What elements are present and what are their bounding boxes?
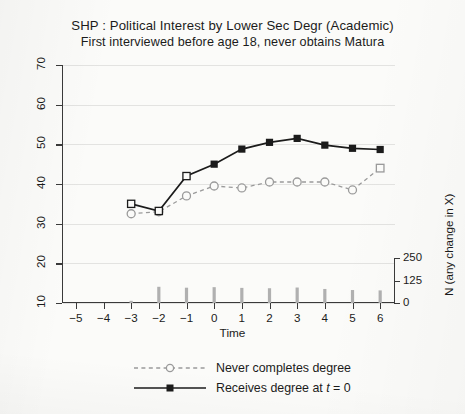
right-axis-title: N (any change in X) <box>442 194 455 296</box>
gridline <box>63 105 395 106</box>
y-axis-label: 70 <box>34 52 47 76</box>
right-axis-label: 0 <box>403 296 409 308</box>
x-axis-tick <box>187 303 188 309</box>
chart-title: SHP : Political Interest by Lower Sec De… <box>0 18 465 34</box>
x-axis-tick <box>214 303 215 309</box>
x-axis-label: −5 <box>64 311 88 324</box>
x-axis-tick <box>104 303 105 309</box>
chart-title-block: SHP : Political Interest by Lower Sec De… <box>0 18 465 50</box>
gridline <box>63 184 395 185</box>
y-axis-tick <box>56 144 62 145</box>
x-axis-title: Time <box>0 326 465 340</box>
right-axis-label: 250 <box>403 251 422 263</box>
chart-subtitle: First interviewed before age 18, never o… <box>0 34 465 50</box>
x-axis-label: 6 <box>368 311 392 324</box>
y-axis-tick <box>56 65 62 66</box>
y-axis-tick <box>56 184 62 185</box>
x-axis-tick <box>76 303 77 309</box>
x-axis-tick <box>325 303 326 309</box>
legend-label-never-completes: Never completes degree <box>216 361 351 375</box>
x-axis-tick <box>380 303 381 309</box>
x-axis-label: −3 <box>119 311 143 324</box>
y-axis-tick <box>56 105 62 106</box>
y-axis-label: 10 <box>34 290 47 314</box>
x-axis-label: 4 <box>313 311 337 324</box>
legend-item-receives-degree: Receives degree at t = 0 <box>0 378 465 398</box>
legend-item-never-completes: Never completes degree <box>0 358 465 378</box>
legend-label-receives-degree: Receives degree at t = 0 <box>216 381 351 395</box>
legend-key-solid-filled-square <box>132 381 208 395</box>
x-axis-label: −4 <box>92 311 116 324</box>
gridline <box>63 263 395 264</box>
gridline <box>63 224 395 225</box>
x-axis-label: −1 <box>175 311 199 324</box>
chart-figure: SHP : Political Interest by Lower Sec De… <box>0 0 465 414</box>
x-axis-label: −2 <box>147 311 171 324</box>
x-axis-label: 5 <box>341 311 365 324</box>
y-axis-label: 40 <box>34 171 47 195</box>
gridline <box>63 303 395 304</box>
gridline <box>63 144 395 145</box>
x-axis-tick <box>297 303 298 309</box>
y-axis-label: 60 <box>34 91 47 115</box>
x-axis-tick <box>159 303 160 309</box>
plot-area <box>62 65 394 303</box>
right-axis-line <box>394 258 395 304</box>
x-axis-tick <box>353 303 354 309</box>
x-axis-label: 0 <box>202 311 226 324</box>
y-axis-tick <box>56 263 62 264</box>
x-axis-tick <box>242 303 243 309</box>
legend-key-dashed-open-circle <box>132 361 208 375</box>
y-axis-label: 50 <box>34 131 47 155</box>
x-axis-label: 1 <box>230 311 254 324</box>
right-axis-label: 125 <box>403 274 422 286</box>
x-axis-tick <box>270 303 271 309</box>
y-axis-label: 30 <box>34 210 47 234</box>
chart-legend: Never completes degree Receives degree a… <box>0 358 465 398</box>
y-axis-tick <box>56 303 62 304</box>
gridline <box>63 65 395 66</box>
x-axis-label: 3 <box>285 311 309 324</box>
x-axis-tick <box>131 303 132 309</box>
y-axis-tick <box>56 224 62 225</box>
y-axis-label: 20 <box>34 250 47 274</box>
x-axis-label: 2 <box>258 311 282 324</box>
